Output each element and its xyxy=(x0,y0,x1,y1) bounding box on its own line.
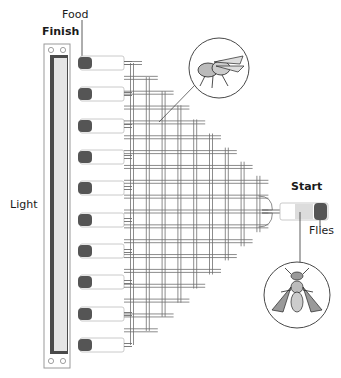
maze-grid xyxy=(124,62,272,346)
flies-cluster xyxy=(295,204,313,219)
fly-maze-diagram xyxy=(0,0,341,378)
food-plug xyxy=(78,214,92,226)
food-plug xyxy=(78,57,92,69)
food-plug xyxy=(78,339,92,351)
food-tube xyxy=(78,150,132,164)
food-tube xyxy=(78,338,132,352)
food-plug xyxy=(78,308,92,320)
food-plug xyxy=(78,88,92,100)
light-panel xyxy=(44,44,70,368)
food-tube xyxy=(78,307,132,321)
food-plug xyxy=(78,182,92,194)
food-tube xyxy=(78,213,132,227)
food-tube xyxy=(78,275,132,289)
food-tube xyxy=(78,244,132,258)
food-tube xyxy=(78,56,132,70)
food-tube xyxy=(78,181,132,195)
food-plug xyxy=(78,245,92,257)
food-plug xyxy=(78,151,92,163)
food-tubes xyxy=(78,56,132,352)
fly-top-view-icon xyxy=(264,262,330,328)
food-tube xyxy=(78,87,132,101)
start-plug xyxy=(314,203,327,220)
food-plug xyxy=(78,276,92,288)
food-plug xyxy=(78,120,92,132)
food-tube xyxy=(78,119,132,133)
start-tube xyxy=(262,203,328,262)
